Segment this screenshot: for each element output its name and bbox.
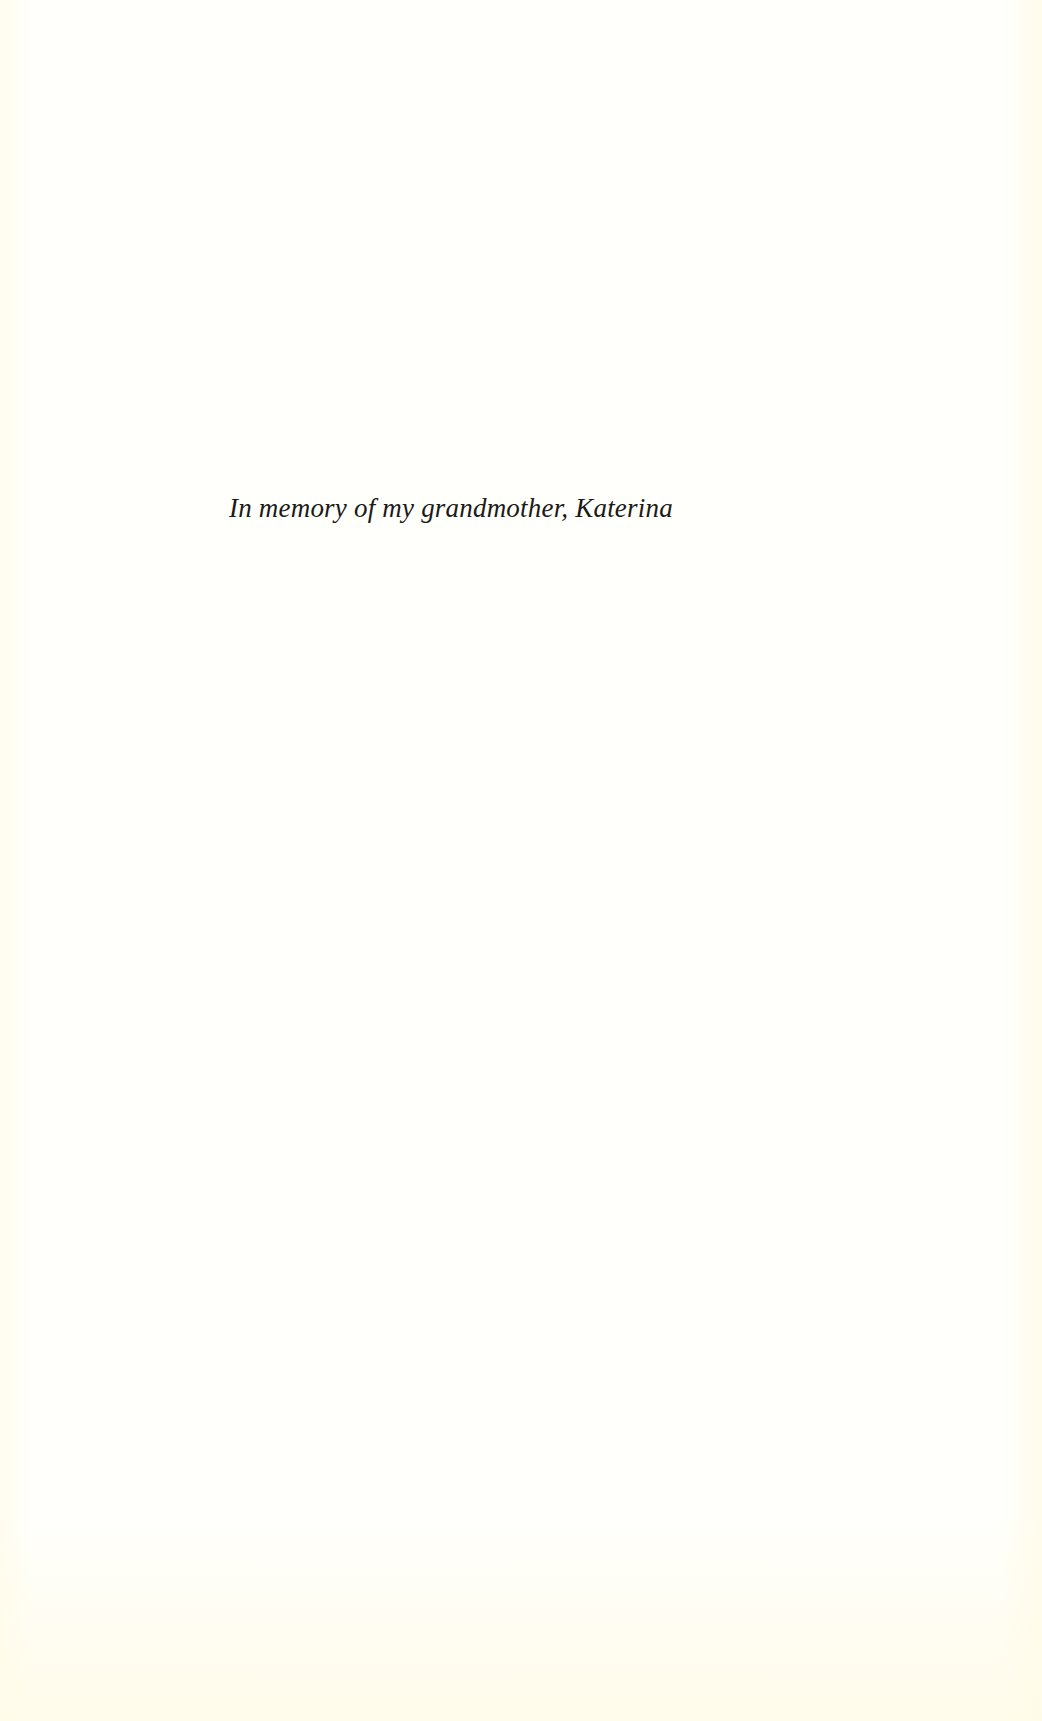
book-page: In memory of my grandmother, Katerina	[0, 0, 1042, 1721]
dedication-text: In memory of my grandmother, Katerina	[229, 490, 673, 526]
